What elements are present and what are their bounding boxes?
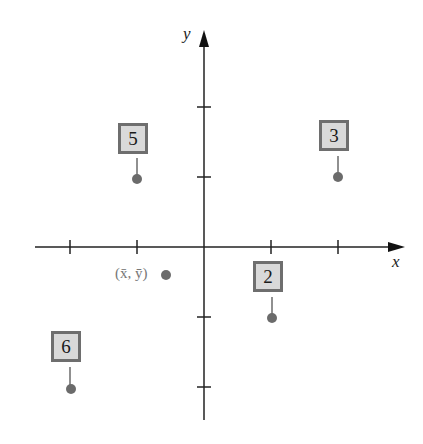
x-axis-arrow-icon: [388, 242, 405, 252]
coordinate-plane: [0, 0, 423, 444]
data-point-5: [132, 174, 142, 184]
point-label-box: 6: [51, 331, 81, 362]
point-label: 6: [61, 336, 71, 358]
point-label: 5: [128, 128, 138, 150]
y-axis-label: y: [183, 24, 191, 44]
y-axis-arrow-icon: [199, 30, 209, 47]
x-axis-label: x: [392, 252, 400, 272]
data-point-2: [267, 313, 277, 323]
mean-point: [161, 270, 171, 280]
data-point-3: [333, 172, 343, 182]
point-label-box: 2: [253, 261, 283, 292]
mean-point-label: (x̄, ȳ): [115, 265, 148, 282]
point-label-box: 3: [319, 120, 349, 151]
point-label-box: 5: [118, 123, 148, 154]
point-label: 2: [263, 266, 273, 288]
point-label: 3: [329, 125, 339, 147]
data-point-6: [66, 384, 76, 394]
